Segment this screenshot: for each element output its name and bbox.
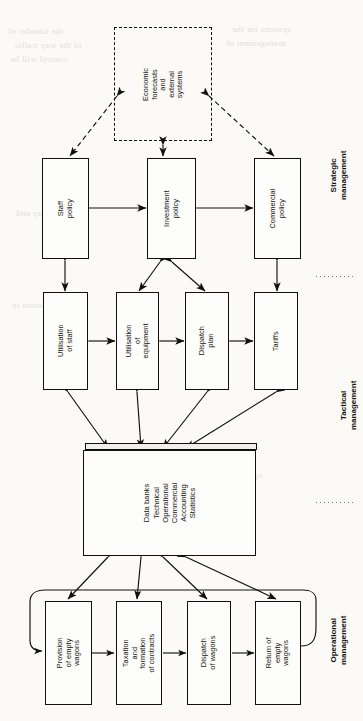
node-dispatch-plan[interactable]: Dispatch plan <box>185 292 229 390</box>
node-taxation-and-formation-of-contracts[interactable]: Taxation and formation of contracts <box>116 601 162 705</box>
node-utilisation-of-staff-label: Utilisation of staff <box>57 325 74 358</box>
band-separator-strategic-tactical <box>316 276 356 277</box>
node-taxation-and-formation-of-contracts-label: Taxation and formation of contracts <box>122 631 156 675</box>
node-utilisation-of-equipment[interactable]: Utilisation of equipment <box>116 292 159 390</box>
node-utilisation-of-equipment-label: Utilisation of equipment <box>125 321 151 362</box>
node-dispatch-plan-label: Dispatch plan <box>198 326 215 355</box>
node-utilisation-of-staff[interactable]: Utilisation of staff <box>43 292 88 390</box>
node-commercial-policy[interactable]: Commercial policy <box>254 158 301 259</box>
node-return-of-empty-wagons-label: Return of empty wagons <box>265 631 291 675</box>
node-provision-of-empty-wagons-label: Provision of empty wagons <box>56 638 82 669</box>
node-external-forecasts[interactable]: Economic forecasts and external systems <box>114 27 212 141</box>
node-external-forecasts-label: Economic forecasts and external systems <box>142 68 185 101</box>
band-label-strategic: Strategic management <box>329 151 348 200</box>
figure-canvas: the transfer of of the way traffic contr… <box>0 0 363 721</box>
band-label-tactical: Tactical management <box>339 381 358 430</box>
node-dispatch-of-wagons-label: Dispatch of wagons <box>200 636 217 670</box>
node-investment-policy[interactable]: Investment policy <box>147 158 196 259</box>
node-data-banks-label: Data banks Technical Operational Commerc… <box>118 418 222 589</box>
node-investment-policy-label: Investment policy <box>163 190 180 227</box>
band-label-operational: Operational management <box>329 616 348 665</box>
node-data-banks[interactable]: Data banks Technical Operational Commerc… <box>83 450 256 556</box>
node-tariffs[interactable]: Tariffs <box>254 292 298 390</box>
node-staff-policy-label: Staff policy <box>57 199 74 218</box>
band-separator-tactical-operational <box>316 502 356 503</box>
node-tariffs-label: Tariffs <box>272 331 281 351</box>
node-commercial-policy-label: Commercial policy <box>269 189 286 229</box>
node-staff-policy[interactable]: Staff policy <box>42 158 89 259</box>
node-return-of-empty-wagons[interactable]: Return of empty wagons <box>255 601 301 705</box>
node-dispatch-of-wagons[interactable]: Dispatch of wagons <box>187 601 231 705</box>
node-provision-of-empty-wagons[interactable]: Provision of empty wagons <box>45 601 92 705</box>
